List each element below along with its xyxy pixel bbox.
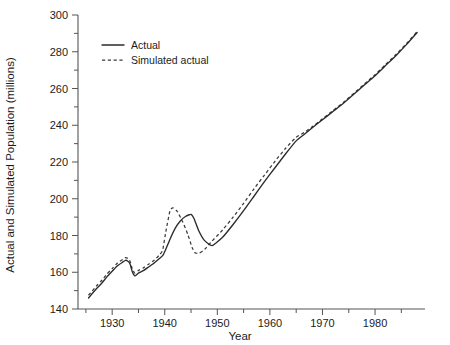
y-tick-label: 180 bbox=[50, 230, 68, 242]
y-tick-label: 280 bbox=[50, 46, 68, 58]
y-tick-label: 160 bbox=[50, 266, 68, 278]
y-axis: 140160180200220240260280300 Actual and S… bbox=[4, 9, 78, 315]
y-tick-label: 140 bbox=[50, 303, 68, 315]
chart-legend: Actual Simulated actual bbox=[102, 39, 209, 66]
chart-canvas: 140160180200220240260280300 Actual and S… bbox=[0, 0, 450, 345]
y-tick-label: 240 bbox=[50, 119, 68, 131]
data-series-group bbox=[89, 32, 418, 298]
series-line-simulated-actual bbox=[89, 32, 418, 296]
x-axis-tick-labels: 193019401950196019701980 bbox=[100, 317, 387, 329]
x-axis-title: Year bbox=[228, 330, 251, 342]
y-axis-title: Actual and Simulated Population (million… bbox=[4, 57, 16, 273]
x-axis-minor-ticks bbox=[86, 309, 401, 313]
y-tick-label: 300 bbox=[50, 9, 68, 21]
x-tick-label: 1970 bbox=[310, 317, 334, 329]
x-tick-label: 1980 bbox=[363, 317, 387, 329]
y-axis-tick-labels: 140160180200220240260280300 bbox=[50, 9, 68, 315]
x-tick-label: 1950 bbox=[205, 317, 229, 329]
y-axis-major-ticks bbox=[72, 15, 78, 309]
y-tick-label: 220 bbox=[50, 156, 68, 168]
y-tick-label: 260 bbox=[50, 83, 68, 95]
population-chart-figure: 140160180200220240260280300 Actual and S… bbox=[0, 0, 450, 345]
series-line-actual bbox=[89, 32, 418, 298]
x-tick-label: 1960 bbox=[258, 317, 282, 329]
x-tick-label: 1930 bbox=[100, 317, 124, 329]
legend-label-actual: Actual bbox=[131, 39, 160, 51]
x-tick-label: 1940 bbox=[153, 317, 177, 329]
x-axis: 193019401950196019701980 Year bbox=[78, 309, 425, 342]
legend-label-simulated-actual: Simulated actual bbox=[131, 54, 209, 66]
y-tick-label: 200 bbox=[50, 193, 68, 205]
